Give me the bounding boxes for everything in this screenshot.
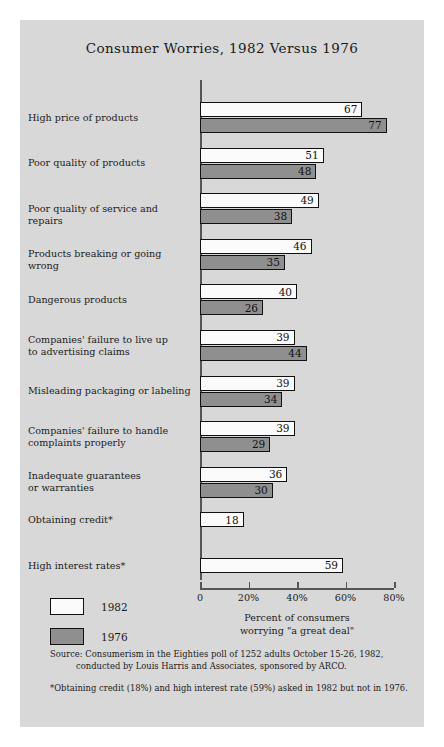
bar-value-1976: 34 bbox=[264, 394, 281, 405]
category-label: Poor quality of service and repairs bbox=[28, 203, 192, 227]
bar-value-1976: 44 bbox=[288, 348, 305, 359]
chart-panel: Consumer Worries, 1982 Versus 1976 High … bbox=[20, 20, 424, 727]
category-label-line: Poor quality of products bbox=[28, 157, 192, 169]
legend-swatch-1982 bbox=[50, 598, 84, 615]
bar-1982: 59 bbox=[200, 558, 343, 573]
bar-value-1976: 38 bbox=[274, 211, 291, 222]
legend-item-1976: 1976 bbox=[50, 628, 128, 645]
bar-value-1982: 67 bbox=[344, 104, 361, 115]
x-axis-tick-label: 60% bbox=[335, 592, 356, 603]
category-label: High price of products bbox=[28, 112, 192, 124]
legend-item-1982: 1982 bbox=[50, 598, 128, 615]
category-label-line: High interest rates* bbox=[28, 560, 192, 572]
bar-value-1976: 48 bbox=[298, 166, 315, 177]
category-label-line: High price of products bbox=[28, 112, 192, 124]
category-label: High interest rates* bbox=[28, 560, 192, 572]
bar-value-1982: 49 bbox=[300, 195, 317, 206]
bar-1982: 39 bbox=[200, 421, 295, 436]
legend-swatch-1976 bbox=[50, 628, 84, 645]
bar-1976: 77 bbox=[200, 118, 387, 133]
x-axis-caption-line2: worrying "a great deal" bbox=[240, 625, 354, 636]
category-label-line: to advertising claims bbox=[28, 346, 192, 358]
bar-1982: 39 bbox=[200, 376, 295, 391]
bar-value-1982: 39 bbox=[276, 332, 293, 343]
category-label-line: Companies' failure to handle bbox=[28, 425, 192, 437]
bar-1982: 36 bbox=[200, 467, 287, 482]
bar-1976: 35 bbox=[200, 255, 285, 270]
bar-1976: 38 bbox=[200, 209, 292, 224]
source-note-line2: conducted by Louis Harris and Associates… bbox=[76, 661, 402, 673]
legend-label-1982: 1982 bbox=[101, 601, 128, 613]
bar-1982: 18 bbox=[200, 512, 244, 527]
x-axis-rule bbox=[200, 588, 394, 590]
category-label-line: Obtaining credit* bbox=[28, 514, 192, 526]
bar-1982: 51 bbox=[200, 148, 324, 163]
bar-1976: 44 bbox=[200, 346, 307, 361]
category-label-line: Products breaking or going wrong bbox=[28, 248, 192, 272]
legend-label-1976: 1976 bbox=[101, 631, 128, 643]
bar-value-1976: 30 bbox=[254, 485, 271, 496]
x-axis: 020%40%60%80% bbox=[200, 588, 394, 589]
x-axis-tick-label: 0 bbox=[197, 592, 203, 603]
bar-1976: 30 bbox=[200, 483, 273, 498]
x-axis-tick-label: 40% bbox=[286, 592, 307, 603]
bar-value-1982: 51 bbox=[305, 150, 322, 161]
bar-1982: 49 bbox=[200, 193, 319, 208]
plot-area: High price of products6777Poor quality o… bbox=[200, 80, 394, 580]
bar-value-1982: 59 bbox=[325, 560, 342, 571]
bar-value-1976: 35 bbox=[267, 257, 284, 268]
category-label-line: Poor quality of service and repairs bbox=[28, 203, 192, 227]
category-label: Misleading packaging or labeling bbox=[28, 385, 192, 397]
bar-1976: 26 bbox=[200, 300, 263, 315]
x-axis-tick bbox=[297, 582, 299, 588]
source-note-line1: Source: Consumerism in the Eighties poll… bbox=[50, 649, 383, 659]
bar-value-1982: 39 bbox=[276, 378, 293, 389]
bar-value-1982: 46 bbox=[293, 241, 310, 252]
category-label-line: Inadequate guarantees bbox=[28, 470, 192, 482]
x-axis-tick bbox=[249, 582, 251, 588]
bar-value-1982: 39 bbox=[276, 423, 293, 434]
bar-1982: 39 bbox=[200, 330, 295, 345]
source-note: Source: Consumerism in the Eighties poll… bbox=[50, 649, 402, 672]
category-label-line: or warranties bbox=[28, 482, 192, 494]
bar-1976: 34 bbox=[200, 392, 282, 407]
x-axis-tick bbox=[346, 582, 348, 588]
x-axis-tick-label: 80% bbox=[383, 592, 404, 603]
bar-1982: 67 bbox=[200, 102, 362, 117]
bar-value-1982: 40 bbox=[279, 287, 296, 298]
bar-value-1982: 18 bbox=[225, 515, 242, 526]
category-label: Obtaining credit* bbox=[28, 514, 192, 526]
x-axis-caption: Percent of consumers worrying "a great d… bbox=[200, 612, 394, 637]
category-label-line: Dangerous products bbox=[28, 294, 192, 306]
category-label: Companies' failure to live upto advertis… bbox=[28, 334, 192, 358]
x-axis-tick bbox=[200, 582, 202, 588]
category-label: Products breaking or going wrong bbox=[28, 248, 192, 272]
bar-1976: 48 bbox=[200, 164, 316, 179]
bar-1976: 29 bbox=[200, 437, 270, 452]
category-label: Poor quality of products bbox=[28, 157, 192, 169]
category-label-line: Companies' failure to live up bbox=[28, 334, 192, 346]
bar-value-1982: 36 bbox=[269, 469, 286, 480]
bar-value-1976: 29 bbox=[252, 439, 269, 450]
chart-title: Consumer Worries, 1982 Versus 1976 bbox=[20, 40, 424, 56]
category-label-line: Misleading packaging or labeling bbox=[28, 385, 192, 397]
category-label: Dangerous products bbox=[28, 294, 192, 306]
x-axis-tick bbox=[394, 582, 396, 588]
x-axis-tick-label: 20% bbox=[238, 592, 259, 603]
bar-1982: 40 bbox=[200, 284, 297, 299]
bar-1982: 46 bbox=[200, 239, 312, 254]
footnote: *Obtaining credit (18%) and high interes… bbox=[50, 683, 410, 695]
category-label: Inadequate guaranteesor warranties bbox=[28, 470, 192, 494]
bar-value-1976: 26 bbox=[245, 303, 262, 314]
category-label: Companies' failure to handlecomplaints p… bbox=[28, 425, 192, 449]
x-axis-caption-line1: Percent of consumers bbox=[244, 612, 350, 623]
bar-value-1976: 77 bbox=[368, 120, 385, 131]
category-label-line: complaints properly bbox=[28, 437, 192, 449]
